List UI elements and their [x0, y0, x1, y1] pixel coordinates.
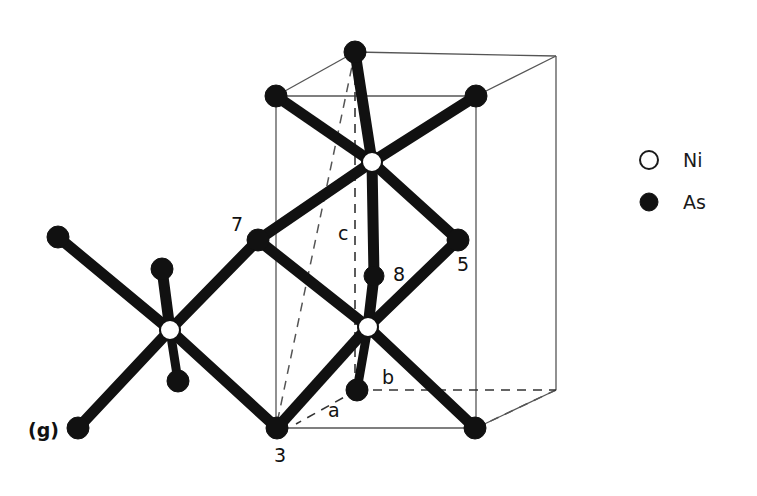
- as-atom: [346, 379, 368, 401]
- ni-atom: [160, 320, 180, 340]
- legend-open-circle-icon: [640, 151, 658, 169]
- as-atom: [465, 85, 487, 107]
- label-3: 3: [274, 444, 286, 466]
- as-atom: [47, 226, 69, 248]
- crystal-structure-figure: 7583 cba (g) NiAs: [0, 0, 757, 496]
- label-8: 8: [393, 263, 405, 285]
- as-atom: [266, 417, 288, 439]
- as-atom: [247, 229, 269, 251]
- as-atom: [344, 41, 366, 63]
- legend-label-as: As: [683, 191, 706, 213]
- label-7: 7: [231, 213, 243, 235]
- ni-atom: [358, 317, 378, 337]
- as-atom: [464, 417, 486, 439]
- axis-label-c: c: [338, 222, 348, 244]
- legend-label-ni: Ni: [683, 149, 703, 171]
- axis-label-b: b: [382, 366, 394, 388]
- legend-filled-circle-icon: [640, 193, 658, 211]
- label-5: 5: [457, 253, 469, 275]
- ni-atom: [362, 152, 382, 172]
- bond-ni-top-to-as-8: [372, 162, 374, 276]
- axis-label-a: a: [328, 399, 340, 421]
- panel-label: (g): [28, 419, 59, 441]
- as-atom: [364, 266, 384, 286]
- figure-page: 7583 cba (g) NiAs: [0, 0, 757, 496]
- as-atom: [265, 85, 287, 107]
- as-atom: [167, 370, 189, 392]
- as-atom: [447, 229, 469, 251]
- as-atom: [151, 258, 173, 280]
- as-atom: [67, 417, 89, 439]
